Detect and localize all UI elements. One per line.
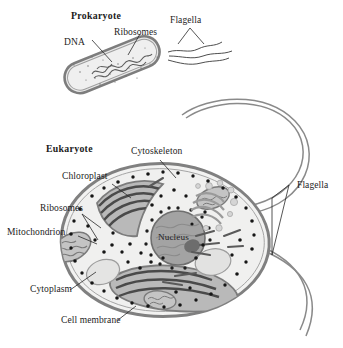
cytoskeleton-label: Cytoskeleton (131, 146, 182, 157)
nucleus-label: Nucleus (158, 232, 189, 243)
cell-membrane-label: Cell membrane (61, 315, 121, 326)
prokaryote-dna-label: DNA (64, 37, 85, 48)
ribosomes-label: Ribosomes (40, 203, 83, 214)
chloroplast-label: Chloroplast (62, 171, 107, 182)
prokaryote-ribosomes-label: Ribosomes (114, 27, 157, 38)
prokaryote-flagella-label: Flagella (170, 15, 201, 26)
eukaryote-flagella-label: Flagella (297, 180, 328, 191)
prokaryote-heading: Prokaryote (71, 10, 121, 21)
eukaryote-cell (48, 99, 312, 336)
prokaryote-cell (60, 28, 232, 98)
eukaryote-heading: Eukaryote (46, 143, 93, 154)
prokaryote-flagella (168, 42, 232, 64)
cytoplasm-label: Cytoplasm (30, 284, 72, 295)
cell-diagram (0, 0, 343, 348)
mitochondrion-label: Mitochondrion (7, 227, 65, 238)
